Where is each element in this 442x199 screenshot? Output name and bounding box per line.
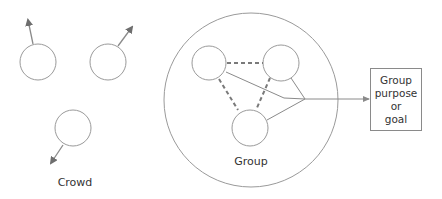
group-member-2-goal-line [291, 78, 305, 99]
group-link-2-3 [256, 78, 270, 110]
goal-line-1: Group [380, 74, 412, 87]
goal-line-3: or [391, 100, 402, 113]
crowd-member-3-direction-arrow-icon [51, 145, 63, 163]
group-link-1-3 [219, 79, 238, 110]
goal-line-4: goal [385, 113, 407, 126]
crowd [20, 20, 132, 163]
group-member-3-goal-line [267, 99, 305, 120]
crowd-member-1 [20, 44, 56, 80]
crowd-member-1-direction-arrow-icon [28, 20, 33, 44]
crowd-member-2 [90, 44, 126, 80]
group-member-1 [192, 46, 226, 80]
group-label: Group [226, 155, 276, 168]
group-purpose-box: Group purpose or goal [370, 68, 422, 131]
group-member-3 [232, 110, 268, 146]
crowd-member-3 [55, 110, 91, 146]
goal-line-2: purpose [375, 87, 418, 100]
crowd-member-2-direction-arrow-icon [118, 27, 132, 46]
crowd-label: Crowd [50, 176, 100, 189]
group-member-2 [263, 45, 299, 81]
